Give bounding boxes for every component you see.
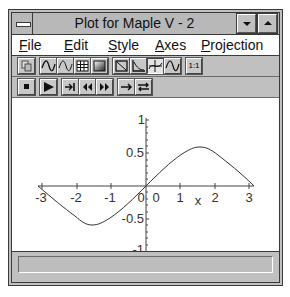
continuous-cycle-button[interactable]: [135, 79, 152, 95]
plot-window: Plot for Maple V - 2 File Edit Style Axe…: [8, 9, 283, 286]
rewind-button[interactable]: [79, 79, 96, 95]
shaded-square-icon: [92, 59, 107, 73]
copy-button[interactable]: [18, 58, 35, 74]
menu-bar: File Edit Style Axes Projection: [12, 35, 279, 56]
x-axis-label: x: [195, 193, 202, 208]
system-menu-bar-icon: [16, 22, 31, 27]
svg-text:1: 1: [176, 190, 183, 205]
single-cycle-button[interactable]: [118, 79, 135, 95]
menu-axes-rest: xes: [164, 37, 186, 53]
next-frame-button[interactable]: [62, 79, 79, 95]
grid-icon: [75, 59, 90, 73]
boxed-axes-icon: [114, 59, 129, 73]
constrained-button[interactable]: 1:1: [186, 58, 202, 74]
copy-icon: [19, 59, 34, 73]
curve-icon: [58, 59, 73, 73]
svg-text:0: 0: [137, 190, 144, 205]
triangle-down-icon: [243, 22, 251, 26]
axes-normal-button[interactable]: [147, 58, 164, 74]
plot-svg: -3 -2 -1 0 1 2 3 x 1 0.5 0 -0.5 -1: [12, 98, 279, 251]
svg-text:0: 0: [152, 190, 159, 205]
svg-text:3: 3: [245, 190, 252, 205]
triangle-up-icon: [264, 21, 272, 25]
fast-forward-icon: [97, 80, 112, 94]
stop-button[interactable]: [18, 79, 35, 95]
normal-axes-icon: [148, 59, 163, 73]
toolbar-animation: [12, 77, 279, 98]
step-forward-icon: [63, 80, 78, 94]
svg-text:-0.5: -0.5: [122, 211, 144, 226]
window-title: Plot for Maple V - 2: [34, 13, 235, 34]
svg-text:2: 2: [211, 190, 218, 205]
menu-file[interactable]: File: [19, 36, 42, 54]
no-axes-icon: [165, 59, 180, 73]
line-style-button[interactable]: [40, 58, 57, 74]
arrow-right-icon: [119, 80, 134, 94]
menu-projection-rest: rojection: [210, 37, 263, 53]
system-menu-button[interactable]: [12, 13, 33, 34]
svg-text:-1: -1: [104, 190, 116, 205]
axes-boxed-button[interactable]: [113, 58, 130, 74]
menu-axes[interactable]: Axes: [155, 36, 186, 54]
status-bar: [12, 252, 279, 282]
rewind-icon: [80, 80, 95, 94]
curve-icon: [41, 59, 56, 73]
stop-icon: [19, 80, 34, 94]
line-style-2-button[interactable]: [57, 58, 74, 74]
menu-style[interactable]: Style: [108, 36, 139, 54]
menu-style-rest: tyle: [117, 37, 139, 53]
fast-forward-button[interactable]: [96, 79, 113, 95]
play-icon: [41, 80, 56, 94]
patch-shaded-button[interactable]: [91, 58, 108, 74]
title-bar[interactable]: Plot for Maple V - 2: [12, 13, 279, 35]
svg-text:1: 1: [138, 112, 145, 127]
status-field: [18, 256, 273, 273]
arrows-cycle-icon: [136, 80, 151, 94]
svg-text:-2: -2: [70, 190, 82, 205]
plot-canvas[interactable]: -3 -2 -1 0 1 2 3 x 1 0.5 0 -0.5 -1: [12, 98, 279, 252]
window-frame: Plot for Maple V - 2 File Edit Style Axe…: [11, 12, 280, 283]
x-tick-labels: -3 -2 -1 0 1 2 3 x: [35, 190, 252, 208]
maximize-button[interactable]: [258, 14, 277, 33]
minimize-button[interactable]: [237, 14, 256, 33]
axes-frame-button[interactable]: [130, 58, 147, 74]
toolbar-style: 1:1: [12, 56, 279, 77]
patch-grid-button[interactable]: [74, 58, 91, 74]
frame-axes-icon: [131, 59, 146, 73]
y-tick-labels: 1 0.5 0 -0.5 -1: [122, 112, 160, 251]
svg-text:0.5: 0.5: [126, 145, 144, 160]
menu-edit-rest: dit: [73, 37, 88, 53]
menu-projection[interactable]: Projection: [201, 36, 263, 54]
menu-file-rest: ile: [28, 37, 42, 53]
axes-none-button[interactable]: [164, 58, 181, 74]
menu-edit[interactable]: Edit: [64, 36, 88, 54]
play-button[interactable]: [40, 79, 57, 95]
svg-text:-1: -1: [132, 242, 144, 251]
